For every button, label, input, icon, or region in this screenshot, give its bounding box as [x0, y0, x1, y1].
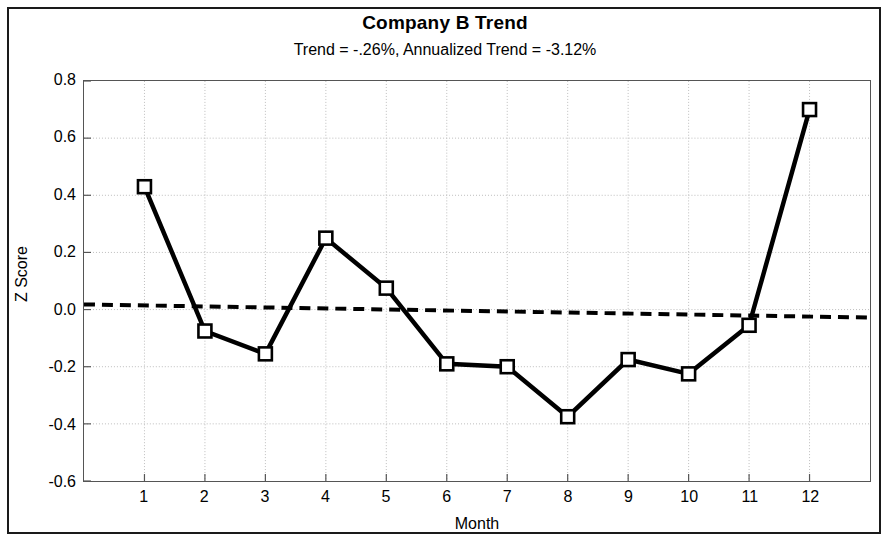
x-axis-tick-label: 11 [730, 489, 770, 505]
y-axis-tick-label: -0.2 [10, 359, 76, 375]
x-axis-tick-label: 3 [245, 489, 285, 505]
data-point-markers [138, 103, 816, 423]
x-axis-tick-labels: 123456789101112 [83, 489, 871, 511]
y-axis-tick-label: 0.0 [10, 302, 76, 318]
data-series-line [144, 110, 809, 417]
y-axis-tick-label: 0.6 [10, 129, 76, 145]
y-axis-tick-label: -0.6 [10, 474, 76, 490]
y-axis-tick-label: 0.8 [10, 72, 76, 88]
x-axis-tick-label: 7 [487, 489, 527, 505]
chart-title: Company B Trend [0, 12, 890, 34]
x-axis-tick-label: 6 [427, 489, 467, 505]
chart-figure: Company B Trend Trend = -.26%, Annualize… [0, 0, 890, 542]
x-axis-tick-label: 4 [305, 489, 345, 505]
y-axis-tick-labels: 0.80.60.40.20.0-0.2-0.4-0.6 [0, 80, 76, 482]
x-axis-tick-label: 10 [669, 489, 709, 505]
x-axis-tick-label: 12 [790, 489, 830, 505]
y-axis-tick-label: -0.4 [10, 417, 76, 433]
x-axis-tick-label: 2 [184, 489, 224, 505]
x-axis-ticks [144, 474, 809, 481]
vertical-gridlines [144, 81, 809, 481]
y-axis-tick-label: 0.4 [10, 187, 76, 203]
plot-svg [84, 81, 870, 481]
x-axis-tick-label: 1 [124, 489, 164, 505]
chart-subtitle: Trend = -.26%, Annualized Trend = -3.12% [0, 41, 890, 59]
x-axis-title: Month [83, 515, 871, 533]
x-axis-tick-label: 9 [609, 489, 649, 505]
plot-area [83, 80, 871, 482]
y-axis-tick-label: 0.2 [10, 244, 76, 260]
horizontal-gridlines [84, 138, 870, 424]
y-axis-ticks [84, 81, 91, 481]
x-axis-tick-label: 8 [548, 489, 588, 505]
x-axis-tick-label: 5 [366, 489, 406, 505]
